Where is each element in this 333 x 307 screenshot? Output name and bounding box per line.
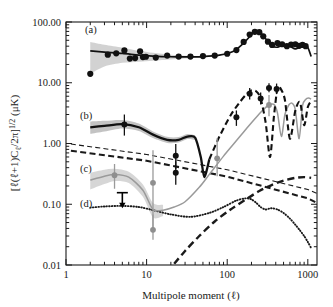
y-tick-label: 100.00 <box>32 17 61 28</box>
panel-label-a: (a) <box>85 24 97 36</box>
y-tick-label: 1.00 <box>43 138 61 149</box>
panel-label-c: (c) <box>80 163 92 175</box>
panel-label-d: (d) <box>80 198 93 210</box>
x-tick-label: 100 <box>219 269 235 280</box>
y-axis-title-sup: 1/2 <box>8 119 17 129</box>
y-tick-label: 0.10 <box>43 199 61 210</box>
y-axis-title-units: (μK) <box>8 94 21 116</box>
y-tick-label: 0.01 <box>43 260 61 271</box>
power-spectrum-plot: 1101001000 100.0010.001.000.100.01 Multi… <box>0 0 333 307</box>
panel-label-b: (b) <box>80 110 93 122</box>
x-tick-label: 1000 <box>297 269 318 280</box>
cmb-power-spectrum-figure: 1101001000 100.0010.001.000.100.01 Multi… <box>0 0 333 307</box>
y-axis-title-part1: [ℓ(ℓ+1)C <box>8 151 21 192</box>
x-tick-label: 10 <box>141 269 152 280</box>
x-axis-title: Multipole moment (ℓ) <box>142 289 240 302</box>
x-tick-label: 1 <box>63 269 68 280</box>
y-tick-label: 10.00 <box>37 77 61 88</box>
y-axis-title-part2: /2π] <box>8 129 20 147</box>
